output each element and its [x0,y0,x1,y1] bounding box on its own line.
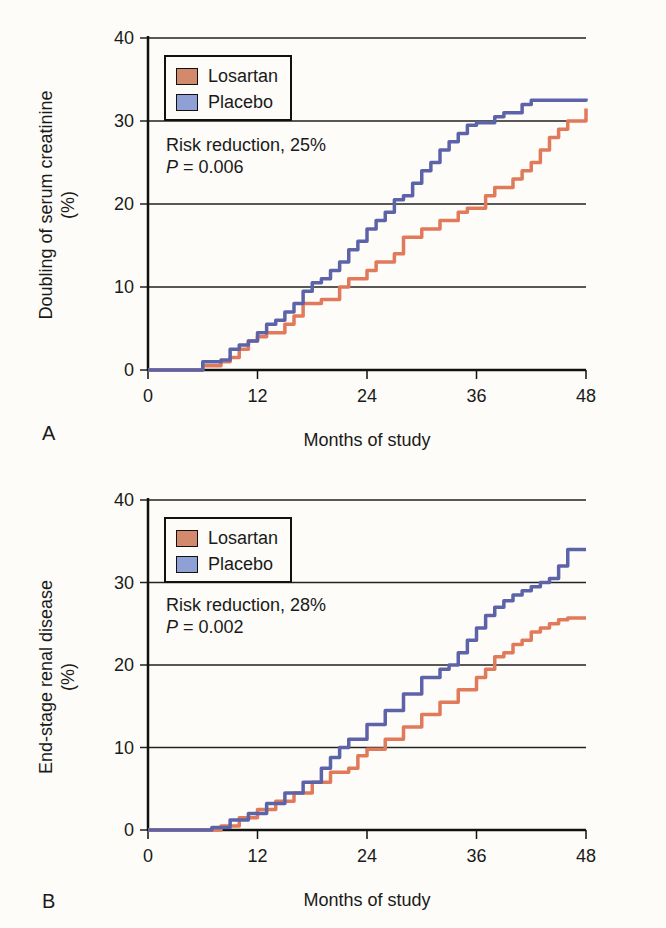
p-label: P [166,157,178,177]
y-axis-label-line1: Doubling of serum creatinine [35,40,57,370]
plot-area-b: 010203040012243648 [0,460,666,928]
legend-item-losartan: Losartan [176,525,278,551]
legend-item-placebo: Placebo [176,89,278,115]
x-tick-label: 48 [576,386,596,406]
y-tick-label: 10 [114,277,134,297]
p-label: P [166,617,178,637]
risk-reduction-text: Risk reduction, 25% [166,134,326,156]
legend-label: Placebo [208,92,273,113]
legend-a: Losartan Placebo [164,55,292,121]
plot-area-a: 010203040012243648 [0,0,666,460]
risk-annotation-a: Risk reduction, 25% P = 0.006 [166,134,326,178]
x-tick-label: 36 [466,846,486,866]
x-tick-label: 12 [247,846,267,866]
x-tick-label: 24 [357,846,377,866]
y-tick-label: 30 [114,573,134,593]
placebo-curve [148,550,586,831]
y-tick-label: 20 [114,194,134,214]
x-tick-label: 12 [247,386,267,406]
p-value-text: P = 0.006 [166,156,326,178]
x-axis-label-b: Months of study [217,890,517,911]
placebo-swatch-icon [176,556,198,573]
losartan-swatch-icon [176,530,198,547]
y-tick-label: 0 [124,360,134,380]
legend-label: Placebo [208,554,273,575]
y-axis-label-a: Doubling of serum creatinine (%) [35,40,79,370]
x-tick-label: 0 [143,846,153,866]
legend-b: Losartan Placebo [164,517,292,583]
y-tick-label: 40 [114,28,134,48]
y-tick-label: 10 [114,738,134,758]
risk-reduction-text: Risk reduction, 28% [166,594,326,616]
y-tick-label: 20 [114,655,134,675]
y-axis-label-b: End-stage renal disease (%) [35,512,79,842]
p-value: = 0.002 [178,617,244,637]
x-tick-label: 24 [357,386,377,406]
panel-letter-b: B [42,890,55,913]
x-tick-label: 48 [576,846,596,866]
p-value-text: P = 0.002 [166,616,326,638]
legend-item-placebo: Placebo [176,551,278,577]
p-value: = 0.006 [178,157,244,177]
x-tick-label: 36 [466,386,486,406]
y-tick-label: 40 [114,490,134,510]
legend-label: Losartan [208,528,278,549]
y-axis-label-line1: End-stage renal disease [35,512,57,842]
y-axis-label-line2: (%) [57,40,79,370]
legend-label: Losartan [208,66,278,87]
chart-panel-a: 010203040012243648 Doubling of serum cre… [0,0,666,460]
losartan-swatch-icon [176,68,198,85]
y-axis-label-line2: (%) [57,512,79,842]
x-tick-label: 0 [143,386,153,406]
legend-item-losartan: Losartan [176,63,278,89]
chart-panel-b: 010203040012243648 End-stage renal disea… [0,460,666,928]
y-tick-label: 0 [124,820,134,840]
y-tick-label: 30 [114,111,134,131]
panel-letter-a: A [42,422,55,445]
risk-annotation-b: Risk reduction, 28% P = 0.002 [166,594,326,638]
placebo-swatch-icon [176,94,198,111]
x-axis-label-a: Months of study [217,430,517,451]
